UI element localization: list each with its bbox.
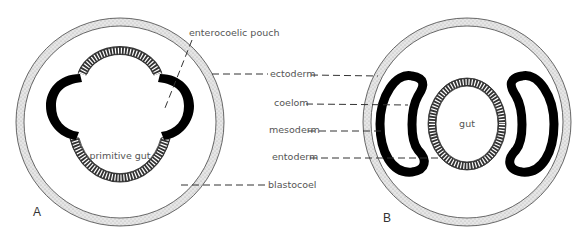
enterocoelic-pouch-label: enterocoelic pouch: [189, 27, 279, 38]
mesoderm-label: mesoderm: [269, 124, 320, 135]
primitive-gut-label: primitive gut: [89, 150, 150, 161]
coelom-label: coelom: [274, 97, 309, 108]
ectoderm-leader-b: [311, 75, 378, 76]
blastocoel-label: blastocoel: [268, 179, 317, 190]
gut-label: gut: [459, 118, 475, 129]
entoderm-label: entoderm: [272, 151, 318, 162]
diagram-canvas: primitive gut A gut B enterocoelic pouch…: [0, 0, 588, 245]
panel-b-label: B: [383, 211, 391, 225]
panel-a-label: A: [33, 205, 41, 219]
ectoderm-label: ectoderm: [270, 68, 315, 79]
panel-b: gut B: [363, 18, 571, 226]
panel-a: primitive gut A: [16, 18, 224, 226]
